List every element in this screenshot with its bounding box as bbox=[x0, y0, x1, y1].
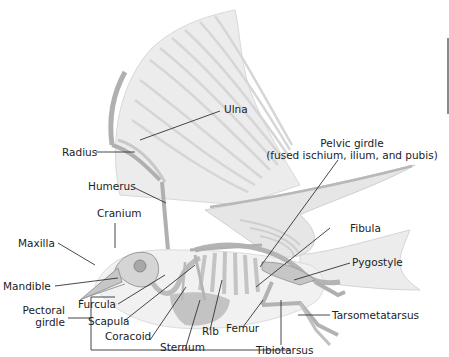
label-furcula: Furcula bbox=[78, 298, 116, 310]
label-fibula: Fibula bbox=[350, 222, 381, 234]
label-tibiotarsus: Tibiotarsus bbox=[256, 344, 313, 356]
label-pectoral-girdle-line1: Pectoral bbox=[7, 304, 65, 316]
label-pelvic-girdle-line2: (fused ischium, ilium, and pubis) bbox=[262, 149, 442, 161]
label-pelvic-girdle: Pelvic girdle (fused ischium, ilium, and… bbox=[262, 137, 442, 161]
label-cranium: Cranium bbox=[97, 207, 142, 219]
label-coracoid: Coracoid bbox=[105, 330, 151, 342]
label-scapula: Scapula bbox=[88, 315, 130, 327]
label-pectoral-girdle: Pectoral girdle bbox=[7, 304, 65, 328]
label-sternum: Sternum bbox=[160, 341, 205, 353]
label-humerus: Humerus bbox=[88, 180, 136, 192]
label-radius: Radius bbox=[62, 146, 97, 158]
label-mandible: Mandible bbox=[3, 280, 51, 292]
bird-skeleton-diagram: Ulna Radius Humerus Cranium Maxilla Mand… bbox=[0, 0, 449, 357]
label-tarsometatarsus: Tarsometatarsus bbox=[332, 309, 419, 321]
label-femur: Femur bbox=[226, 322, 259, 334]
label-pelvic-girdle-line1: Pelvic girdle bbox=[262, 137, 442, 149]
label-ulna: Ulna bbox=[224, 103, 248, 115]
bird-illustration bbox=[0, 0, 449, 357]
label-pygostyle: Pygostyle bbox=[352, 256, 403, 268]
label-pectoral-girdle-line2: girdle bbox=[7, 316, 65, 328]
label-maxilla: Maxilla bbox=[18, 237, 55, 249]
label-rib: Rib bbox=[202, 325, 219, 337]
